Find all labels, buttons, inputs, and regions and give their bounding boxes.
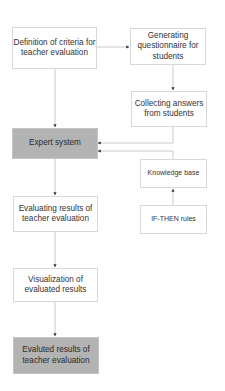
node-label: Expert system (29, 138, 81, 149)
node-label: Definition of criteria for teacher evalu… (13, 38, 96, 59)
node-label: Visualization of evaluated results (14, 275, 97, 296)
edge-knowledge-expert (98, 151, 173, 159)
node-visualization: Visualization of evaluated results (13, 268, 98, 302)
node-label: Collecting answers from students (132, 99, 206, 120)
node-if-then-rules: IF-THEN rules (140, 205, 207, 234)
node-label: IF-THEN rules (151, 214, 196, 225)
node-answers: Collecting answers from students (131, 91, 207, 127)
node-final-results: Evaluted results of teacher evaluation (13, 337, 99, 374)
node-expert-system: Expert system (12, 128, 98, 159)
node-label: Evaluted results of teacher evaluation (14, 345, 98, 366)
node-evaluating: Evaluating results of teacher evaluation (13, 196, 98, 232)
edge-answers-expert (98, 127, 173, 143)
node-criteria: Definition of criteria for teacher evalu… (12, 27, 97, 69)
node-label: Knowledge base (148, 168, 200, 179)
node-questionnaire: Generating questionnaire for students (130, 28, 206, 65)
node-knowledge-base: Knowledge base (140, 159, 207, 188)
node-label: Evaluating results of teacher evaluation (14, 204, 97, 225)
node-label: Generating questionnaire for students (131, 31, 205, 63)
